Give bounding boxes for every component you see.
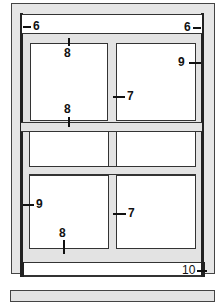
lower-left-upper-pane bbox=[29, 131, 109, 168]
callout-meeting-rail: 8 bbox=[64, 103, 71, 115]
callout-line-meeting-rail bbox=[68, 117, 70, 127]
callout-line-sill bbox=[197, 270, 207, 272]
head-band bbox=[22, 14, 202, 34]
callout-lower-bottom-rail: 8 bbox=[59, 227, 66, 239]
sill-band bbox=[21, 262, 204, 277]
callout-upper-mullion: 7 bbox=[127, 90, 134, 102]
callout-line-upper-stile-right bbox=[189, 62, 201, 64]
bottom-sill bbox=[10, 290, 215, 302]
callout-line-upper-mullion bbox=[113, 96, 125, 98]
callout-head-left: 6 bbox=[33, 20, 40, 32]
callout-line-lower-bottom-rail bbox=[63, 240, 65, 254]
callout-line-lower-stile-left bbox=[23, 204, 34, 206]
callout-line-lower-mullion bbox=[113, 213, 126, 215]
callout-upper-top-rail: 8 bbox=[64, 47, 71, 59]
sill-left-cap bbox=[20, 262, 24, 277]
lower-right-upper-pane bbox=[116, 131, 196, 168]
callout-line-upper-top-rail bbox=[68, 38, 70, 46]
callout-head-right: 6 bbox=[184, 21, 191, 33]
callout-lower-mullion: 7 bbox=[128, 207, 135, 219]
right-jamb-edge bbox=[201, 13, 204, 262]
callout-upper-stile-right: 9 bbox=[178, 56, 185, 68]
lower-left-pane bbox=[29, 175, 109, 249]
lower-sash-top-rail bbox=[29, 166, 196, 175]
callout-line-head-left bbox=[23, 26, 31, 28]
callout-lower-stile-left: 9 bbox=[36, 198, 43, 210]
callout-sill: 10 bbox=[182, 264, 195, 276]
callout-line-head-right bbox=[193, 27, 201, 29]
